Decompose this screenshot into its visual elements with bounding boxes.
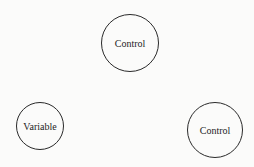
- node-variable: Variable: [16, 102, 64, 150]
- diagram-canvas: Control Variable Control: [0, 0, 254, 167]
- node-label: Control: [115, 38, 146, 49]
- node-control-top: Control: [101, 14, 159, 72]
- node-label: Control: [200, 125, 231, 136]
- node-label: Variable: [23, 121, 56, 132]
- node-control-right: Control: [187, 102, 243, 158]
